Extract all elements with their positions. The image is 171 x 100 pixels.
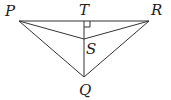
label-S: S: [86, 40, 96, 58]
label-Q: Q: [79, 81, 91, 99]
geometry-diagram: P T R S Q: [0, 0, 171, 100]
right-angle-marker: [84, 21, 90, 27]
label-P: P: [4, 2, 16, 20]
label-R: R: [150, 1, 162, 19]
label-T: T: [79, 1, 90, 19]
segment-PQ: [19, 21, 84, 77]
